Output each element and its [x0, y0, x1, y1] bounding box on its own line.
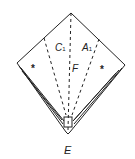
label-a1: A1: [82, 43, 92, 53]
label-c1: C1: [55, 43, 66, 53]
outer-edge-right: [68, 65, 125, 134]
label-e: E: [64, 145, 71, 156]
label-f: F: [72, 64, 78, 74]
star-marker-right: *: [100, 65, 104, 75]
label-a-sub: 1: [89, 46, 92, 52]
origami-diagram: [0, 0, 135, 159]
star-marker-left: *: [31, 64, 35, 74]
label-a-text: A: [82, 42, 89, 53]
label-c-sub: 1: [62, 46, 65, 52]
center-crease: [68, 13, 71, 130]
